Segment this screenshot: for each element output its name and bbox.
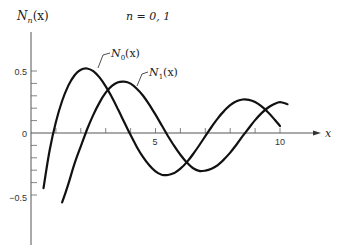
- n0-label-main: N: [110, 47, 121, 60]
- x-tick-label-10: 10: [275, 137, 285, 147]
- n1-leader-line: [137, 72, 148, 86]
- n0-label: N0(x): [110, 47, 140, 62]
- n1-label-main: N: [148, 66, 159, 79]
- x-axis-label: x: [325, 127, 332, 140]
- y-axis-label: Nn(x): [16, 9, 49, 25]
- y-tick-label-neg-0.5: −0.5: [9, 193, 27, 203]
- y-axis-label-tail: (x): [33, 9, 49, 23]
- y-tick-label-0: 0: [22, 129, 27, 139]
- curve-n1: [62, 82, 287, 203]
- curve-n0: [44, 68, 281, 188]
- n0-label-tail: (x): [125, 47, 140, 60]
- n1-label-tail: (x): [163, 66, 178, 79]
- bessel-chart: 0.5 0 −0.5 5 10 x Nn(x) n = 0, 1 N0(x) N…: [0, 0, 338, 252]
- y-axis-label-main: N: [16, 9, 28, 23]
- x-tick-label-5: 5: [152, 137, 157, 147]
- n0-leader-line: [98, 53, 110, 68]
- y-tick-label-0.5: 0.5: [14, 67, 27, 77]
- x-axis-arrow-icon: [313, 131, 321, 136]
- chart-title: n = 0, 1: [126, 10, 170, 23]
- n1-label: N1(x): [148, 66, 178, 81]
